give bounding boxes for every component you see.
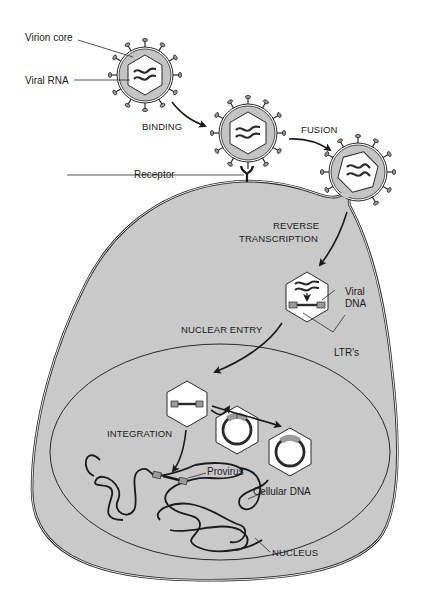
- host-cell: [32, 181, 397, 580]
- ltr-left: [289, 302, 297, 308]
- virion-binding: [210, 95, 285, 169]
- receptor-icon: [241, 166, 253, 182]
- fusion-arrow: [289, 139, 330, 150]
- label-nucleus: NUCLEUS: [272, 547, 318, 558]
- step-nuclear-entry: NUCLEAR ENTRY: [181, 324, 263, 335]
- label-cellular-dna: Cellular DNA: [253, 486, 311, 497]
- virion-fusing: [320, 134, 395, 205]
- label-viral-dna-1: Viral: [345, 286, 365, 297]
- label-virion-core: Virion core: [25, 32, 73, 43]
- label-viral-rna: Viral RNA: [25, 75, 69, 86]
- label-receptor: Receptor: [134, 169, 175, 180]
- step-reverse-transcription-2: TRANSCRIPTION: [239, 233, 318, 244]
- step-integration: INTEGRATION: [107, 428, 172, 439]
- label-ltrs: LTR's: [334, 347, 359, 358]
- cell-membrane: [32, 181, 397, 580]
- retrovirus-lifecycle-diagram: Virion core Viral RNA BINDING FUSION Rec…: [0, 0, 422, 610]
- label-provirus: Provirus: [207, 466, 244, 477]
- ltr-right: [317, 302, 325, 308]
- step-binding: BINDING: [142, 121, 182, 132]
- label-viral-dna-2: DNA: [345, 298, 366, 309]
- step-reverse-transcription-1: REVERSE: [273, 220, 319, 231]
- virion-free: [108, 38, 181, 111]
- step-fusion: FUSION: [301, 124, 338, 135]
